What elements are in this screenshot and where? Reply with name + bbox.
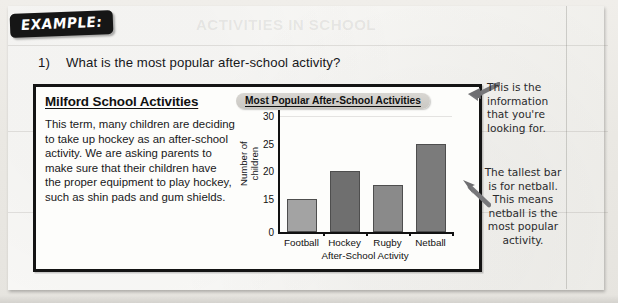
x-tickmark (409, 232, 411, 236)
x-tickmark (452, 232, 454, 236)
y-axis-ticks: 302520150 (254, 113, 274, 229)
example-badge: EXAMPLE: (10, 10, 114, 38)
article: Milford School Activities This term, man… (45, 94, 235, 205)
bar-netball (416, 144, 446, 232)
x-axis-title: After-School Activity (278, 250, 452, 261)
bar-chart: Most Popular After-School Activities Num… (232, 91, 470, 263)
screenshot-page: ACTIVITIES IN SCHOOL the school is doing… (0, 0, 618, 303)
x-tick-label: Rugby (373, 237, 401, 248)
page-rule (8, 45, 608, 46)
y-tick-label: 30 (263, 111, 274, 122)
page-margin-line (566, 6, 567, 289)
x-tickmark (366, 232, 368, 236)
bar-rugby (373, 185, 403, 232)
annotation-info: This is the information that you're look… (487, 81, 561, 135)
annotation-tallest-bar: The tallest bar is for netball. This mea… (483, 166, 563, 248)
x-tickmark (323, 232, 325, 236)
question-line: 1)What is the most popular after-school … (38, 55, 340, 70)
page-edge-shadow (0, 295, 618, 303)
x-tick-label: Football (284, 237, 319, 248)
source-content-box: Milford School Activities This term, man… (33, 84, 482, 272)
x-tick-label: Hockey (328, 237, 361, 248)
bar-series (280, 113, 452, 232)
question-text: What is the most popular after-school ac… (66, 55, 340, 70)
example-badge-label: EXAMPLE: (20, 13, 103, 33)
y-tick-label: 0 (268, 227, 274, 238)
y-tick-label: 20 (263, 166, 274, 177)
article-body: This term, many children are deciding to… (45, 117, 235, 205)
y-tick-label: 15 (263, 194, 274, 205)
x-axis-labels: FootballHockeyRugbyNetball (276, 237, 456, 251)
y-tick-label: 25 (263, 138, 274, 149)
plot-area: Number of children 302520150 FootballHoc… (232, 113, 470, 263)
x-axis-line (278, 232, 452, 234)
question-number: 1) (38, 55, 66, 70)
bar-football (287, 199, 317, 232)
chart-title: Most Popular After-School Activities (236, 93, 430, 109)
x-tick-label: Netball (415, 237, 446, 248)
bar-hockey (330, 171, 360, 232)
article-heading: Milford School Activities (45, 94, 235, 109)
